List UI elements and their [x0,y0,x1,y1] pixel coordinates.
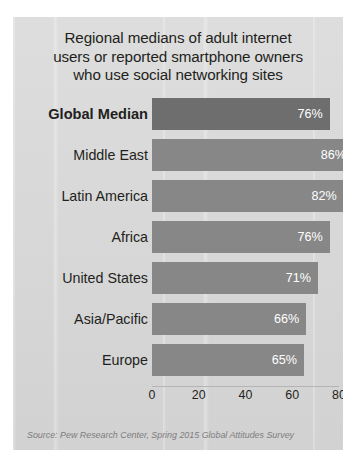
bar-value-label: 82% [311,180,336,212]
bar-value-label: 71% [286,262,311,294]
bar-value-label: 86% [321,139,343,171]
bar-category-label: Middle East [13,139,148,171]
chart-title-line: Regional medians of adult internet [64,29,291,46]
x-axis-tick-label: 40 [239,388,253,402]
bar: 71% [152,262,318,294]
source-note: Source: Pew Research Center, Spring 2015… [27,430,329,440]
bar-value-label: 65% [272,344,297,376]
bar-value-label: 76% [297,98,322,130]
bar: 65% [152,344,304,376]
x-axis-tick-label: 20 [192,388,206,402]
bar-row: Latin America82% [13,180,343,212]
x-axis-line [152,386,339,387]
bar-row: Europe65% [13,344,343,376]
x-axis-tick-label: 0 [149,388,156,402]
chart-title: Regional medians of adult internetusers … [13,17,343,85]
bar-track: 66% [152,303,339,335]
bar-track: 76% [152,221,339,253]
bar-category-label: United States [13,262,148,294]
bar-category-label: Global Median [13,98,148,130]
bar-track: 76% [152,98,339,130]
x-axis-tick-label: 60 [285,388,299,402]
bar: 82% [152,180,343,212]
bar: 66% [152,303,306,335]
chart-panel: Regional medians of adult internetusers … [13,17,343,450]
bar-category-label: Africa [13,221,148,253]
chart-title-line: users or reported smartphone owners [53,48,303,65]
bar-track: 71% [152,262,339,294]
bar-track: 65% [152,344,339,376]
bar: 76% [152,98,330,130]
bar-category-label: Latin America [13,180,148,212]
bar-value-label: 66% [274,303,299,335]
bar-row: United States71% [13,262,343,294]
bar-row: Asia/Pacific66% [13,303,343,335]
bar: 76% [152,221,330,253]
chart-title-line: who use social networking sites [73,66,283,83]
bar-chart-plot-area: Global Median76%Middle East86%Latin Amer… [13,98,343,388]
bar: 86% [152,139,343,171]
bar-row: Africa76% [13,221,343,253]
bar-category-label: Asia/Pacific [13,303,148,335]
bar-value-label: 76% [297,221,322,253]
bar-category-label: Europe [13,344,148,376]
bar-row: Middle East86% [13,139,343,171]
bar-row: Global Median76% [13,98,343,130]
x-axis-tick-label: 80 [332,388,343,402]
bar-track: 82% [152,180,339,212]
bar-track: 86% [152,139,339,171]
x-axis: 020406080 [13,386,343,406]
